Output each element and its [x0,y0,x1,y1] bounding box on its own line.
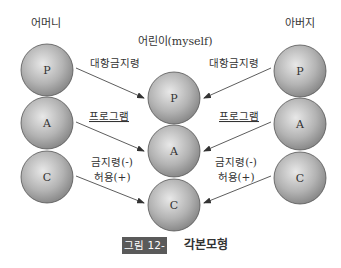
mother-title: 어머니 [31,17,61,30]
father-a-label: A [295,118,305,131]
arrow-mother-a-to-child-a [76,122,144,151]
child-p-label: P [170,92,178,105]
left-program-label: 프로그램 [89,110,129,122]
figure-caption-title: 각본모형 [184,236,228,255]
left-permission-label: 허용(+) [94,171,131,183]
father-column: P A C [274,45,326,204]
arrow-father-a-to-child-a [204,122,271,151]
child-c-label: C [170,199,178,212]
child-title: 어린이(myself) [138,35,213,48]
script-model-diagram: 어머니 어린이(myself) 아버지 P A C P A C P A C 대항… [0,0,341,268]
mother-a-label: A [42,117,52,130]
figure-number-badge: 그림 12-13 [122,237,167,254]
left-injunction-label: 금지령(-) [91,156,133,168]
arrow-mother-p-to-child-p [76,68,144,98]
mother-column: P A C [21,44,73,203]
left-counter-injunction-label: 대항금지령 [90,57,140,69]
right-injunction-label: 금지령(-) [215,156,257,168]
right-counter-injunction-label: 대항금지령 [209,57,259,69]
right-permission-label: 허용(+) [218,171,255,183]
child-a-label: A [169,145,179,158]
mother-c-label: C [43,171,51,184]
father-c-label: C [296,172,304,185]
right-program-label: 프로그램 [219,110,259,122]
child-column: P A C [148,72,200,231]
mother-p-label: P [43,64,51,77]
arrow-father-p-to-child-p [204,68,271,98]
father-p-label: P [296,65,304,78]
father-title: 아버지 [285,17,315,30]
